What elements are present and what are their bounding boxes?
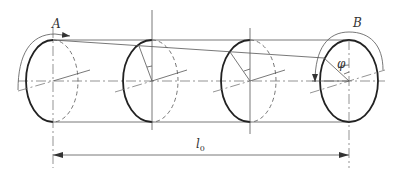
label-a: A	[51, 17, 61, 31]
right-angle-mark	[344, 72, 349, 74]
torsion-diagram: A B φ l0	[0, 0, 394, 181]
cross-section-1	[18, 28, 90, 168]
right-angle-mark	[244, 69, 250, 71]
label-phi: φ	[337, 57, 346, 71]
radius-line	[139, 46, 152, 81]
radius-line-2	[152, 70, 187, 81]
right-angle-mark	[147, 66, 152, 67]
helix-line	[53, 40, 324, 58]
label-b: B	[352, 16, 362, 30]
cross-section-2	[115, 10, 187, 130]
radius-line-2	[250, 70, 285, 81]
label-l0: l0	[196, 137, 205, 153]
tilted-axis	[115, 81, 152, 92]
length-dimension: l0	[53, 137, 349, 155]
tilted-axis	[213, 81, 250, 92]
radius-line	[230, 52, 250, 81]
radius-line	[53, 70, 90, 81]
cross-section-4	[310, 40, 385, 168]
tilted-axis	[18, 81, 53, 91]
